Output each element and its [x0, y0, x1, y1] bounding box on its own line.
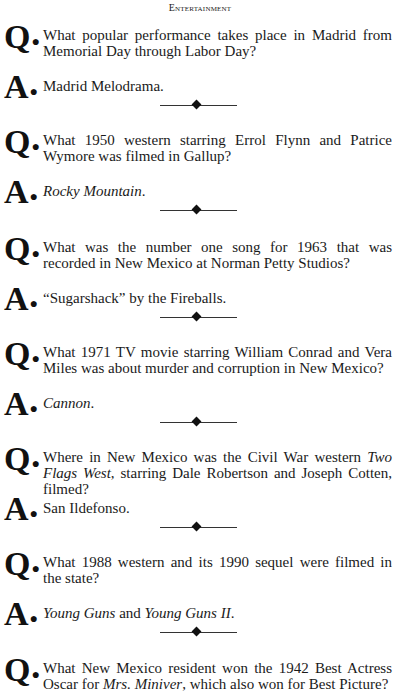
section-divider: [160, 527, 237, 528]
question-text: What was the number one song for 1963 th…: [43, 234, 392, 271]
marker-letter: A: [4, 173, 29, 210]
italic-title: Cannon: [43, 395, 91, 411]
bullet-dot-icon: ●: [31, 561, 39, 576]
bullet-dot-icon: ●: [30, 189, 38, 204]
italic-title: Young Guns: [43, 605, 115, 621]
question-text: What 1971 TV movie starring William Conr…: [43, 339, 392, 376]
answer: A●“Sugarshack” by the Fireballs.: [4, 284, 392, 306]
answer-text: Young Guns and Young Guns II.: [43, 599, 392, 621]
bullet-dot-icon: ●: [30, 296, 38, 311]
text-run: What was the number one song for 1963 th…: [43, 239, 392, 271]
question-text: What popular performance takes place in …: [43, 22, 392, 59]
question: Q●What 1988 western and its 1990 sequel …: [4, 549, 392, 586]
answer-text: San Ildefonso.: [43, 494, 392, 516]
text-run: “Sugarshack” by the Fireballs.: [43, 290, 226, 306]
diamond-ornament-icon: [192, 627, 202, 637]
bullet-dot-icon: ●: [30, 611, 38, 626]
marker-letter: A: [4, 68, 29, 105]
question-marker: Q●: [4, 127, 39, 164]
answer-marker: A●: [4, 72, 37, 109]
section-divider: [160, 317, 237, 318]
question: Q●What 1950 western starring Errol Flynn…: [4, 127, 392, 164]
question-marker: Q●: [4, 549, 39, 586]
bullet-dot-icon: ●: [31, 456, 39, 471]
question-marker: Q●: [4, 444, 39, 481]
diamond-ornament-icon: [192, 522, 202, 532]
bullet-dot-icon: ●: [31, 667, 39, 682]
text-run: What 1971 TV movie starring William Conr…: [43, 344, 392, 376]
answer-text: Cannon.: [43, 389, 392, 411]
bullet-dot-icon: ●: [30, 506, 38, 521]
answer-text: Madrid Melodrama.: [43, 72, 392, 94]
text-run: .: [231, 605, 235, 621]
section-divider: [160, 632, 237, 633]
answer: A●Madrid Melodrama.: [4, 72, 392, 94]
marker-letter: Q: [4, 230, 30, 267]
diamond-ornament-icon: [192, 100, 202, 110]
italic-title: Young Guns II: [145, 605, 231, 621]
italic-title: Rocky Mountain: [43, 183, 142, 199]
answer-text: Rocky Mountain.: [43, 177, 392, 199]
question-marker: Q●: [4, 339, 39, 376]
bullet-dot-icon: ●: [31, 246, 39, 261]
marker-letter: Q: [4, 18, 30, 55]
text-run: and: [115, 605, 144, 621]
answer: A●San Ildefonso.: [4, 494, 392, 516]
answer-marker: A●: [4, 494, 37, 531]
bullet-dot-icon: ●: [31, 351, 39, 366]
answer-text: “Sugarshack” by the Fireballs.: [43, 284, 392, 306]
text-run: What popular performance takes place in …: [43, 27, 392, 59]
question-text: What 1950 western starring Errol Flynn a…: [43, 127, 392, 164]
question: Q●Where in New Mexico was the Civil War …: [4, 444, 392, 497]
marker-letter: A: [4, 595, 29, 632]
question-text: What 1988 western and its 1990 sequel we…: [43, 549, 392, 586]
marker-letter: Q: [4, 440, 30, 477]
text-run: .: [142, 183, 146, 199]
text-run: San Ildefonso.: [43, 500, 130, 516]
text-run: Where in New Mexico was the Civil War we…: [43, 449, 367, 465]
section-header: Entertainment: [0, 2, 400, 13]
answer: A●Young Guns and Young Guns II.: [4, 599, 392, 621]
text-run: , which also won for Best Picture?: [182, 676, 388, 692]
text-run: Madrid Melodrama.: [43, 78, 164, 94]
question: Q●What was the number one song for 1963 …: [4, 234, 392, 271]
marker-letter: A: [4, 385, 29, 422]
question-text: Where in New Mexico was the Civil War we…: [43, 444, 392, 497]
bullet-dot-icon: ●: [31, 139, 39, 154]
text-run: What 1988 western and its 1990 sequel we…: [43, 554, 392, 586]
marker-letter: Q: [4, 335, 30, 372]
question-marker: Q●: [4, 234, 39, 271]
bullet-dot-icon: ●: [31, 34, 39, 49]
answer: A●Cannon.: [4, 389, 392, 411]
section-divider: [160, 210, 237, 211]
answer: A●Rocky Mountain.: [4, 177, 392, 199]
marker-letter: A: [4, 490, 29, 527]
answer-marker: A●: [4, 177, 37, 214]
marker-letter: Q: [4, 651, 30, 688]
diamond-ornament-icon: [192, 205, 202, 215]
question: Q●What 1971 TV movie starring William Co…: [4, 339, 392, 376]
italic-title: Mrs. Miniver: [103, 676, 182, 692]
marker-letter: A: [4, 280, 29, 317]
answer-marker: A●: [4, 284, 37, 321]
text-run: .: [91, 395, 95, 411]
question: Q●What popular performance takes place i…: [4, 22, 392, 59]
question-marker: Q●: [4, 655, 39, 692]
answer-marker: A●: [4, 389, 37, 426]
question-marker: Q●: [4, 22, 39, 59]
bullet-dot-icon: ●: [30, 84, 38, 99]
section-divider: [160, 105, 237, 106]
section-divider: [160, 422, 237, 423]
question-text: What New Mexico resident won the 1942 Be…: [43, 655, 392, 692]
bullet-dot-icon: ●: [30, 401, 38, 416]
answer-marker: A●: [4, 599, 37, 636]
marker-letter: Q: [4, 545, 30, 582]
marker-letter: Q: [4, 123, 30, 160]
diamond-ornament-icon: [192, 312, 202, 322]
text-run: What 1950 western starring Errol Flynn a…: [43, 132, 392, 164]
question: Q●What New Mexico resident won the 1942 …: [4, 655, 392, 692]
diamond-ornament-icon: [192, 417, 202, 427]
